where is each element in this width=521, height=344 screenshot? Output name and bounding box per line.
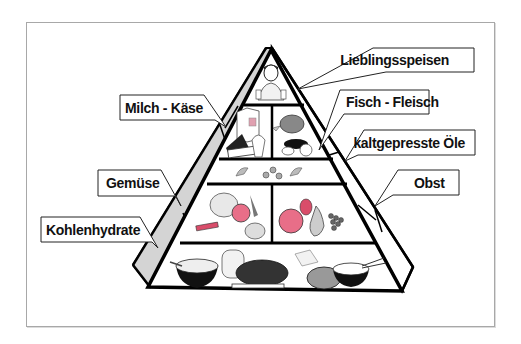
- label-text: Obst: [414, 175, 445, 191]
- label-text: Fisch - Fleisch: [346, 94, 439, 110]
- label-text: Milch - Käse: [125, 100, 204, 116]
- label-text: Gemüse: [106, 175, 160, 191]
- label-kaltgepresste-oele: kaltgepresste Öle: [345, 130, 475, 161]
- food-pyramid-diagram: Lieblingsspeisen Fisch - Fleisch kaltgep…: [0, 0, 521, 344]
- label-kohlenhydrate: Kohlenhydrate: [41, 217, 158, 248]
- label-text: Kohlenhydrate: [46, 222, 141, 238]
- label-text: kaltgepresste Öle: [353, 135, 465, 151]
- label-gemuese: Gemüse: [98, 170, 181, 206]
- label-lieblingsspeisen: Lieblingsspeisen: [297, 48, 474, 90]
- label-milch-kaese: Milch - Käse: [120, 95, 226, 127]
- label-text: Lieblingsspeisen: [340, 52, 449, 68]
- label-obst: Obst: [375, 170, 459, 206]
